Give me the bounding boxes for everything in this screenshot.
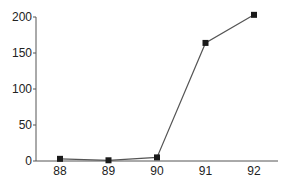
square-marker-icon: [203, 40, 209, 46]
x-tick-label: 89: [102, 164, 116, 178]
y-tick-label: 150: [12, 46, 32, 60]
x-tick-label: 92: [247, 164, 261, 178]
x-tick-label: 90: [150, 164, 164, 178]
x-axis: 8889909192: [36, 161, 278, 178]
y-axis: 050100150200: [12, 10, 36, 168]
y-tick-label: 0: [25, 154, 32, 168]
y-tick-label: 200: [12, 10, 32, 24]
square-marker-icon: [57, 156, 63, 162]
series-line: [60, 15, 254, 160]
square-marker-icon: [154, 154, 160, 160]
square-marker-icon: [106, 157, 112, 163]
x-tick-label: 91: [199, 164, 213, 178]
square-marker-icon: [251, 12, 257, 18]
data-series: [57, 12, 257, 163]
line-chart: 050100150200 8889909192: [0, 0, 281, 182]
y-tick-label: 50: [19, 118, 33, 132]
x-tick-label: 88: [53, 164, 67, 178]
y-tick-label: 100: [12, 82, 32, 96]
